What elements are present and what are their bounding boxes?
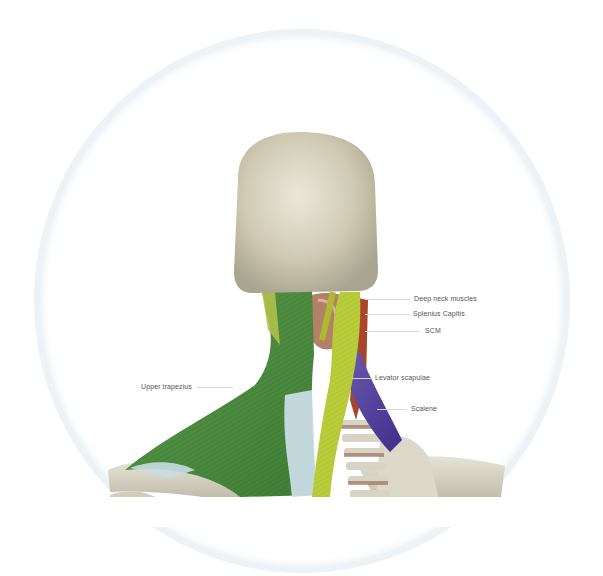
leader-scalene <box>377 409 407 410</box>
leader-scm <box>365 331 420 332</box>
neck-anatomy-illustration <box>0 0 603 576</box>
leader-splenius-capitis <box>365 314 410 315</box>
leader-levator-scapulae <box>352 378 372 379</box>
label-levator-scapulae: Levator scapulae <box>375 374 430 381</box>
label-scalene: Scalene <box>411 405 437 412</box>
label-splenius-capitis: Splenius Capitis <box>413 310 465 317</box>
leader-deep-neck-muscles <box>365 299 410 300</box>
label-deep-neck-muscles: Deep neck muscles <box>414 295 477 302</box>
label-scm: SCM <box>425 327 441 334</box>
label-upper-trapezius: Upper trapezius <box>141 383 192 390</box>
leader-upper-trapezius <box>197 387 233 388</box>
skull <box>234 132 378 293</box>
